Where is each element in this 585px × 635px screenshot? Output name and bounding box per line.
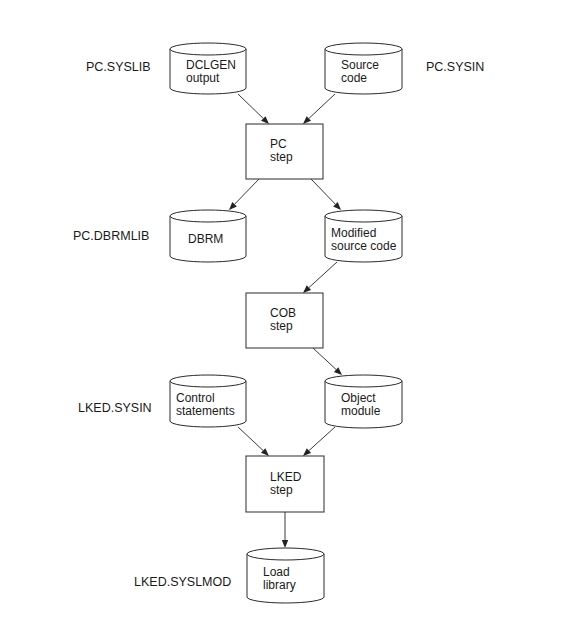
edge-line — [309, 427, 335, 451]
dataset-loadlib: Loadlibrary — [247, 548, 324, 603]
node-label-line: Modified — [331, 226, 376, 240]
node-label-line: code — [341, 71, 367, 85]
edge-lkedstep-loadlib — [282, 512, 288, 548]
jcl-flow-diagram: DCLGENoutputSourcecodePCstepDBRMModified… — [0, 0, 585, 635]
ddname-label-loadlib: LKED.SYSLMOD — [134, 575, 231, 589]
process-step-pcstep: PCstep — [246, 124, 323, 179]
cylinder-top — [170, 375, 246, 387]
process-step-cobstep: COBstep — [246, 293, 323, 348]
dataset-source: Sourcecode — [325, 43, 402, 94]
cylinder-top — [247, 548, 324, 560]
edge-obj-lkedstep — [303, 427, 335, 456]
node-label-line: Source — [341, 58, 379, 72]
node-label-line: DCLGEN — [186, 58, 236, 72]
dataset-dbrm: DBRM — [170, 210, 246, 262]
dataset-modsrc: Modifiedsource code — [325, 210, 402, 262]
node-label-line: Load — [263, 565, 290, 579]
edge-ctl-lkedstep — [238, 427, 269, 456]
node-label-line: Object — [341, 391, 376, 405]
edge-line — [309, 94, 335, 119]
node-label-line: library — [263, 578, 296, 592]
ddname-label-dbrm: PC.DBRMLIB — [73, 229, 149, 243]
edge-cobstep-obj — [313, 348, 342, 375]
node-label-line: source code — [331, 239, 397, 253]
edge-line — [238, 94, 263, 118]
process-step-lkedstep: LKEDstep — [246, 456, 324, 512]
edge-line — [238, 427, 263, 451]
cylinder-top — [170, 210, 246, 222]
node-label-line: step — [270, 319, 293, 333]
edge-line — [313, 348, 336, 370]
node-label-line: step — [270, 150, 293, 164]
node-label-line: COB — [270, 306, 296, 320]
node-label-line: DBRM — [188, 232, 223, 246]
edge-source-pcstep — [303, 94, 335, 124]
cylinder-top — [325, 375, 402, 387]
nodes-layer: DCLGENoutputSourcecodePCstepDBRMModified… — [170, 43, 402, 603]
node-label-line: step — [270, 483, 293, 497]
node-label-line: PC — [270, 137, 287, 151]
edge-pcstep-modsrc — [311, 179, 341, 210]
node-label-line: statements — [176, 404, 235, 418]
node-label-line: module — [341, 404, 381, 418]
ddname-label-source: PC.SYSIN — [426, 60, 484, 74]
node-label-line: LKED — [270, 470, 302, 484]
cylinder-top — [170, 43, 246, 55]
edge-dclgen-pcstep — [238, 94, 269, 124]
edge-line — [311, 179, 335, 204]
ddname-label-ctl: LKED.SYSIN — [78, 401, 152, 415]
cylinder-top — [325, 43, 402, 55]
node-label-line: Control — [176, 391, 215, 405]
edge-line — [235, 179, 259, 204]
dataset-dclgen: DCLGENoutput — [170, 43, 246, 94]
edge-pcstep-dbrm — [229, 179, 259, 210]
edge-modsrc-cobstep — [303, 262, 337, 293]
ddname-label-dclgen: PC.SYSLIB — [86, 60, 151, 74]
cylinder-top — [325, 210, 402, 222]
dataset-obj: Objectmodule — [325, 375, 402, 428]
arrowhead-icon — [282, 540, 288, 548]
dataset-ctl: Controlstatements — [170, 375, 246, 427]
node-label-line: output — [186, 71, 220, 85]
edge-line — [309, 262, 337, 288]
